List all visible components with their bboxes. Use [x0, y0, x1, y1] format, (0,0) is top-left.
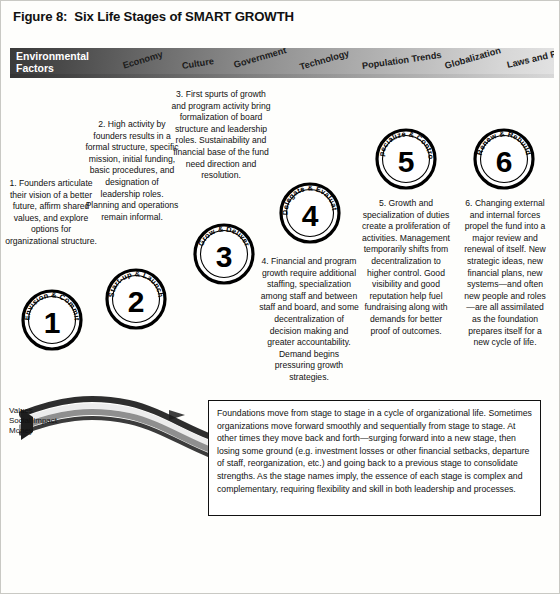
page-title: Figure 8: Six Life Stages of SMART GROWT…	[13, 9, 294, 24]
environmental-factors-label: Environmental Factors	[16, 51, 89, 74]
stage-badge-4[interactable]: Delegate & Evaluate 4	[279, 182, 341, 244]
env-factor-laws-and-policy: Laws and Policy	[506, 48, 554, 70]
stage-6-description: 6. Changing external and internal forces…	[461, 198, 549, 349]
stage-6-number: 6	[496, 145, 513, 178]
stage-2-number: 2	[128, 285, 145, 318]
stage-1-number: 1	[44, 306, 61, 339]
stage-badge-2[interactable]: Start-up & Launch 2	[105, 268, 167, 330]
stage-5-number: 5	[398, 145, 415, 178]
stage-4-description: 4. Financial and program growth require …	[259, 256, 359, 384]
stage-badge-5[interactable]: Specialize & Control 5	[375, 128, 437, 190]
stage-text-1: 1. Founders articulate their vision of a…	[5, 178, 97, 248]
env-factor-economy: Economy	[122, 49, 164, 71]
env-factor-technology: Technology	[299, 48, 351, 72]
stage-text-2: 2. High activity by founders results in …	[85, 119, 179, 223]
stage-2-description: 2. High activity by founders results in …	[85, 119, 179, 223]
stage-4-number: 4	[302, 199, 319, 232]
stage-badge-6[interactable]: Renew & Rebuild 6	[473, 128, 535, 190]
stage-text-6: 6. Changing external and internal forces…	[461, 198, 549, 349]
stage-text-3: 3. First spurts of growth and program ac…	[169, 89, 273, 182]
stage-3-description: 3. First spurts of growth and program ac…	[169, 89, 273, 182]
environmental-factors-bar: Environmental Factors Economy Culture Go…	[10, 48, 554, 78]
env-factor-population-trends: Population Trends	[361, 50, 442, 71]
ribbon-legend: Values Social Impact Money	[9, 406, 57, 436]
stage-1-description: 1. Founders articulate their vision of a…	[5, 178, 97, 248]
stage-5-description: 5. Growth and specialization of duties c…	[362, 198, 450, 337]
stage-text-5: 5. Growth and specialization of duties c…	[362, 198, 450, 337]
stage-badge-3[interactable]: Grow & Deliver 3	[193, 223, 255, 285]
stage-3-number: 3	[216, 240, 233, 273]
stage-text-4: 4. Financial and program growth require …	[259, 256, 359, 384]
env-factor-globalization: Globalization	[444, 48, 502, 71]
stage-badge-1[interactable]: Envision & Commit 1	[21, 289, 83, 351]
caption-box: Foundations move from stage to stage in …	[208, 400, 541, 516]
figure-page: Figure 8: Six Life Stages of SMART GROWT…	[0, 0, 560, 594]
env-factor-government: Government	[233, 48, 288, 70]
env-factor-culture: Culture	[181, 56, 214, 71]
caption-text: Foundations move from stage to stage in …	[217, 407, 532, 495]
